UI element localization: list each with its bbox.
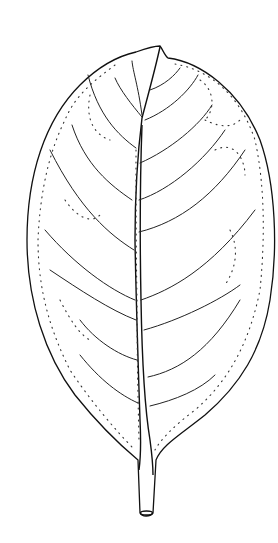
leaf-illustration: Ovate-elliptic simple leaf with pinnate … [0, 0, 278, 543]
leaf-drawing [0, 0, 278, 543]
midrib [135, 47, 160, 470]
petiole-end [141, 511, 153, 515]
left-lateral-veins [45, 61, 142, 403]
